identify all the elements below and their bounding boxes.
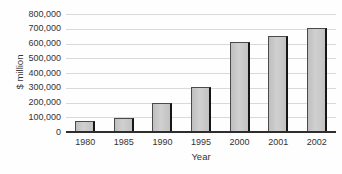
x-tick-label: 1980 [75,137,95,147]
y-tick-label: 0 [0,127,61,138]
bar-chart-figure: $ million 0100,000200,000300,000400,0005… [0,0,342,174]
x-axis-line [66,131,336,133]
plot-area [66,14,336,132]
x-tick-label: 2002 [307,137,327,147]
gridline [66,73,336,74]
y-tick-label: 700,000 [0,23,61,34]
bar-1995 [191,87,211,132]
x-tick-label: 1985 [114,137,134,147]
y-tick-label: 300,000 [0,82,61,93]
bar-1985 [114,118,134,132]
gridline [66,29,336,30]
x-tick-label: 2001 [268,137,288,147]
bar-1990 [152,103,172,132]
bar-2001 [268,36,288,132]
y-tick-label: 100,000 [0,112,61,123]
x-tick-label: 2000 [230,137,250,147]
y-tick-label: 400,000 [0,68,61,79]
y-tick-label: 800,000 [0,9,61,20]
x-tick-label: 1990 [152,137,172,147]
gridline [66,14,336,15]
y-tick-label: 600,000 [0,38,61,49]
x-axis-title: Year [191,151,210,162]
gridline [66,44,336,45]
y-tick-label: 200,000 [0,97,61,108]
x-tick-label: 1995 [191,137,211,147]
bar-2000 [230,42,250,132]
gridline [66,58,336,59]
bar-2002 [307,28,327,132]
y-tick-label: 500,000 [0,53,61,64]
